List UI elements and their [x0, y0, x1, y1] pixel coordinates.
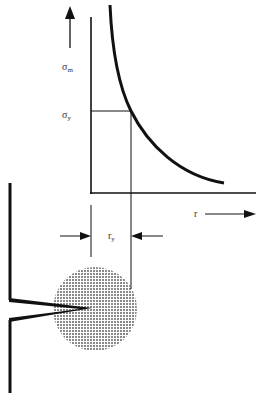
plastic-zone-circle	[53, 267, 137, 351]
r-direction-arrow: r	[194, 208, 256, 219]
r-axis-label: r	[194, 208, 198, 219]
sigma-m-label: σm	[62, 61, 73, 74]
sigma-y-label: σy	[62, 109, 71, 122]
stress-decay-curve	[110, 5, 224, 183]
ry-label: ry	[108, 230, 115, 243]
stress-axis-arrow	[65, 6, 75, 48]
diagram-canvas: σm σy r ry	[0, 0, 264, 400]
ry-dimension-arrows: ry	[60, 230, 163, 243]
